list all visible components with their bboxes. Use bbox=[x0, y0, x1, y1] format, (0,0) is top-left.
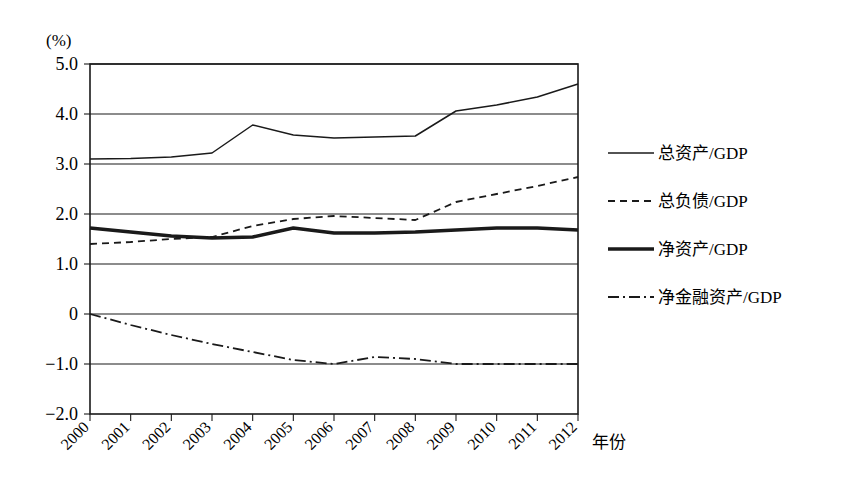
series-line-2 bbox=[90, 228, 578, 238]
x-tick-label-2002: 2002 bbox=[139, 418, 174, 453]
gridlines bbox=[90, 64, 578, 364]
y-tick-label-3-0: 3.0 bbox=[56, 154, 79, 174]
y-tickmarks bbox=[84, 64, 90, 414]
legend-label-3: 净金融资产/GDP bbox=[658, 288, 782, 307]
x-tick-label-2005: 2005 bbox=[261, 418, 296, 453]
y-tick-label-minus-1-0: −1.0 bbox=[45, 354, 78, 374]
x-tick-label-2008: 2008 bbox=[383, 418, 418, 453]
y-tick-label-minus-2-0: −2.0 bbox=[45, 404, 78, 424]
y-tick-labels: 5.0 4.0 3.0 2.0 1.0 0 −1.0 −2.0 bbox=[45, 54, 78, 424]
x-tick-label-2009: 2009 bbox=[423, 418, 458, 453]
y-axis-unit-label: (%) bbox=[46, 31, 71, 50]
x-tick-label-2011: 2011 bbox=[505, 418, 539, 452]
series-line-3 bbox=[90, 314, 578, 364]
chart-legend: 总资产/GDP总负债/GDP净资产/GDP净金融资产/GDP bbox=[608, 144, 782, 307]
x-tick-labels: 2000200120022003200420052006200720082009… bbox=[57, 418, 580, 453]
data-series-group bbox=[90, 84, 578, 364]
legend-label-0: 总资产/GDP bbox=[658, 144, 748, 163]
x-tick-label-2003: 2003 bbox=[179, 418, 214, 453]
x-tick-label-2012: 2012 bbox=[545, 418, 580, 453]
series-line-0 bbox=[90, 84, 578, 159]
x-tick-label-2006: 2006 bbox=[301, 418, 336, 453]
line-chart-svg: (%) 5.0 4.0 3.0 2 bbox=[0, 0, 844, 504]
x-tick-label-2007: 2007 bbox=[342, 418, 377, 453]
y-tick-label-4-0: 4.0 bbox=[56, 104, 79, 124]
legend-label-2: 净资产/GDP bbox=[658, 240, 748, 259]
x-tick-label-2001: 2001 bbox=[98, 418, 133, 453]
legend-label-1: 总负债/GDP bbox=[658, 192, 748, 211]
x-tick-label-2010: 2010 bbox=[464, 418, 499, 453]
y-tick-label-1-0: 1.0 bbox=[56, 254, 79, 274]
x-tick-label-2004: 2004 bbox=[220, 418, 255, 453]
chart-figure: (%) 5.0 4.0 3.0 2 bbox=[0, 0, 844, 504]
y-tick-label-5-0: 5.0 bbox=[56, 54, 79, 74]
y-tick-label-2-0: 2.0 bbox=[56, 204, 79, 224]
y-tick-label-0: 0 bbox=[69, 304, 78, 324]
x-axis-title: 年份 bbox=[592, 433, 626, 452]
